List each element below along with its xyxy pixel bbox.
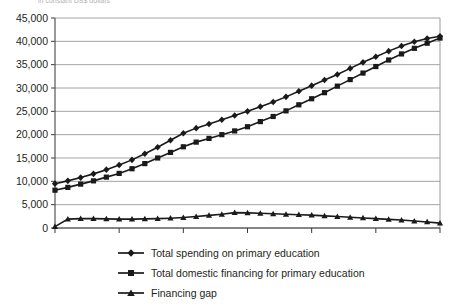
data-point-square — [348, 77, 353, 82]
data-point-square — [437, 35, 442, 40]
data-point-diamond — [167, 137, 173, 144]
data-point-diamond — [116, 162, 122, 169]
data-point-square — [360, 70, 365, 75]
data-point-square — [52, 188, 57, 193]
data-point-square — [412, 46, 417, 51]
data-point-square — [373, 64, 378, 69]
data-point-diamond — [398, 43, 404, 50]
data-point-square — [283, 108, 288, 113]
legend-item-total-spending: Total spending on primary education — [0, 243, 459, 263]
data-point-square — [155, 155, 160, 160]
data-point-square — [91, 178, 96, 183]
plot-area: 05,00010,00015,00020,00025,00030,00035,0… — [0, 0, 459, 235]
series-triangle — [52, 210, 443, 230]
data-point-square — [245, 124, 250, 129]
data-point-square — [258, 119, 263, 124]
data-point-diamond — [90, 171, 96, 178]
data-point-diamond — [155, 144, 161, 151]
data-point-diamond — [232, 112, 238, 119]
data-point-diamond — [411, 39, 417, 46]
data-point-diamond — [321, 77, 327, 84]
legend-key-triangle-icon — [118, 287, 144, 299]
data-point-square — [219, 132, 224, 137]
data-point-square — [194, 140, 199, 145]
data-point-diamond — [193, 125, 199, 132]
data-point-square — [296, 102, 301, 107]
legend-label: Total spending on primary education — [151, 247, 320, 259]
data-point-diamond — [373, 53, 379, 60]
data-point-square — [142, 161, 147, 166]
data-point-square — [117, 171, 122, 176]
data-point-diamond — [334, 71, 340, 78]
data-point-diamond — [283, 94, 289, 101]
legend-key-square-icon — [118, 267, 144, 279]
data-point-square — [386, 57, 391, 62]
data-point-diamond — [257, 103, 263, 110]
data-point-diamond — [244, 108, 250, 115]
data-point-diamond — [103, 166, 109, 173]
data-point-diamond — [65, 178, 71, 185]
chart-legend: Total spending on primary education Tota… — [0, 243, 459, 303]
data-point-square — [78, 182, 83, 187]
data-point-square — [129, 166, 134, 171]
legend-item-financing-gap: Financing gap — [0, 283, 459, 303]
data-point-diamond — [180, 130, 186, 137]
data-point-square — [232, 128, 237, 133]
data-point-diamond — [142, 151, 148, 158]
y-axis-tick-label: 15,000 — [16, 152, 48, 164]
y-axis-tick-label: 25,000 — [16, 105, 48, 117]
y-axis-tick-label: 30,000 — [16, 82, 48, 94]
data-point-diamond — [270, 99, 276, 106]
y-axis-tick-label: 35,000 — [16, 58, 48, 70]
y-axis-tick-label: 20,000 — [16, 128, 48, 140]
legend-item-domestic-financing: Total domestic financing for primary edu… — [0, 263, 459, 283]
data-point-square — [425, 41, 430, 46]
data-point-diamond — [78, 174, 84, 181]
y-axis-tick-label: 10,000 — [16, 175, 48, 187]
data-point-square — [399, 51, 404, 56]
legend-label: Financing gap — [151, 287, 217, 299]
data-point-square — [335, 84, 340, 89]
data-point-square — [181, 144, 186, 149]
legend-label: Total domestic financing for primary edu… — [151, 267, 365, 279]
data-point-square — [309, 96, 314, 101]
chart-figure: in constant US$ dollars 05,00010,00015,0… — [0, 0, 459, 307]
data-point-diamond — [386, 48, 392, 55]
data-point-square — [206, 136, 211, 141]
data-point-diamond — [219, 116, 225, 123]
data-point-diamond — [296, 88, 302, 95]
data-point-square — [271, 114, 276, 119]
y-axis-tick-label: 40,000 — [16, 35, 48, 47]
y-axis-tick-label: 0 — [42, 222, 48, 234]
y-axis-tick-label: 5,000 — [22, 198, 48, 210]
data-point-square — [104, 175, 109, 180]
data-point-square — [322, 90, 327, 95]
data-point-square — [65, 185, 70, 190]
line-chart: 05,00010,00015,00020,00025,00030,00035,0… — [0, 0, 459, 235]
data-point-square — [168, 150, 173, 155]
series-diamond — [52, 33, 443, 187]
data-point-diamond — [206, 121, 212, 128]
data-point-diamond — [347, 65, 353, 72]
y-axis-tick-label: 45,000 — [16, 12, 48, 24]
legend-key-diamond-icon — [118, 247, 144, 259]
